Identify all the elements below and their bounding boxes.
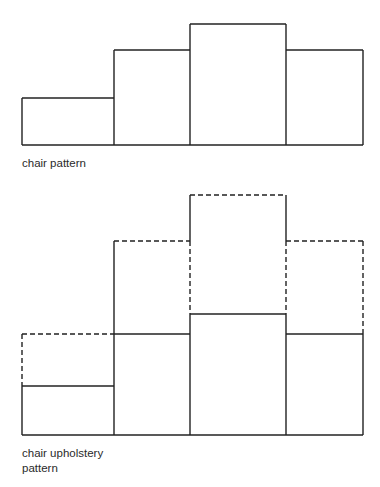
chair-upholstery-caption-line2: pattern bbox=[22, 461, 58, 476]
chair-upholstery-caption-line1: chair upholstery bbox=[22, 446, 103, 461]
chair-pattern-caption: chair pattern bbox=[22, 156, 86, 171]
pattern-diagram bbox=[0, 0, 380, 487]
